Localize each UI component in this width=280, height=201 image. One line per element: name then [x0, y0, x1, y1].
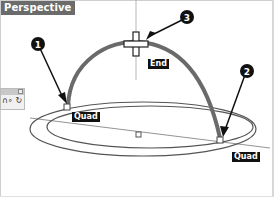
- arc-curve: [68, 42, 220, 138]
- snap-label-end: End: [148, 59, 169, 69]
- close-icon[interactable]: [18, 89, 23, 94]
- quad-point-left: [64, 104, 70, 110]
- snap-label-quad-left: Quad: [72, 112, 100, 122]
- snap-label-quad-right: Quad: [232, 152, 260, 162]
- floating-toolbar[interactable]: ∩∘ ↻: [0, 88, 25, 110]
- center-point: [136, 132, 141, 137]
- toolbar-icons[interactable]: ∩∘ ↻: [1, 95, 24, 107]
- callout-1-number: 1: [35, 40, 41, 50]
- callout-2-number: 2: [244, 67, 250, 77]
- quad-point-right: [217, 137, 223, 143]
- scene-canvas[interactable]: 1 2 3: [0, 0, 272, 196]
- viewport-title[interactable]: Perspective: [1, 1, 75, 15]
- perspective-viewport[interactable]: 1 2 3 Perspective Quad Quad End ∩∘ ↻: [0, 0, 274, 197]
- crosshair-cursor-icon: [124, 32, 148, 56]
- toolbar-titlebar[interactable]: [1, 89, 24, 95]
- callout-3-number: 3: [184, 13, 190, 23]
- x-axis-line: [30, 118, 270, 148]
